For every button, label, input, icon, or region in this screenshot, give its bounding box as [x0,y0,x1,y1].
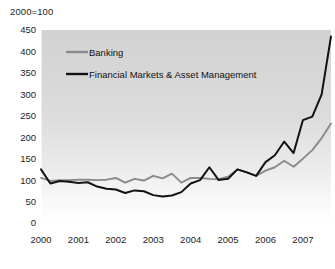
x-tick-label: 2002 [105,234,126,245]
y-tick-label: 150 [20,153,36,164]
line-chart-plot: 050100150200250300350400450 200020012002… [0,0,335,269]
y-tick-label: 200 [20,132,36,143]
x-tick-label: 2004 [180,234,201,245]
x-tick-label: 2000 [30,234,51,245]
chart-container: 2000=100 050100150200250300350400450 200… [0,0,335,269]
y-tick-label: 450 [20,24,36,35]
legend-label: Financial Markets & Asset Management [89,69,257,80]
x-tick-label: 2003 [143,234,164,245]
x-tick-label: 2005 [218,234,239,245]
x-tick-label: 2007 [292,234,313,245]
y-tick-label: 100 [20,175,36,186]
y-tick-label: 350 [20,67,36,78]
y-tick-label: 400 [20,46,36,57]
legend-label: Banking [89,47,123,58]
y-tick-label: 50 [25,196,36,207]
plot-background [41,30,331,223]
y-tick-label: 300 [20,89,36,100]
x-tick-label: 2001 [68,234,89,245]
x-tick-label: 2006 [255,234,276,245]
y-axis-ticks: 050100150200250300350400450 [20,24,36,228]
y-tick-label: 250 [20,110,36,121]
x-axis-ticks: 20002001200220032004200520062007 [30,234,313,245]
y-tick-label: 0 [31,217,36,228]
